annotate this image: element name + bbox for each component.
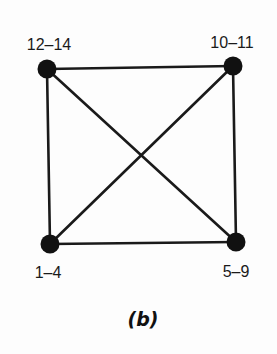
graph-svg: 12–14 10–11 1–4 5–9 (b) [0, 0, 277, 354]
edge-bl-br [50, 242, 236, 244]
node-tr [224, 57, 243, 76]
edge-tr-br [233, 66, 236, 242]
node-br [227, 233, 246, 252]
node-bl [41, 235, 60, 254]
edge-tr-bl [50, 66, 233, 244]
figure-caption: (b) [128, 308, 159, 330]
node-label-tr: 10–11 [210, 34, 253, 51]
edges [47, 66, 236, 244]
node-tl [38, 60, 57, 79]
node-label-bl: 1–4 [35, 264, 62, 281]
node-label-br: 5–9 [223, 263, 250, 280]
node-label-tl: 12–14 [27, 36, 72, 53]
edge-tl-tr [47, 66, 233, 69]
edge-tl-bl [47, 69, 50, 244]
diagram-canvas: 12–14 10–11 1–4 5–9 (b) [0, 0, 277, 354]
